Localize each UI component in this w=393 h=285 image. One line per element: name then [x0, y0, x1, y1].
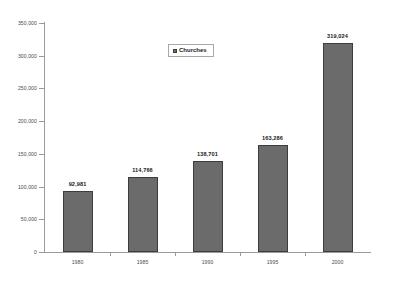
bar-group: 319,024: [305, 23, 370, 252]
bar-group: 92,981: [45, 23, 110, 252]
y-axis-tick-label: 50,000: [0, 216, 44, 222]
bar-chart: 350,000300,000250,000200,000150,000100,0…: [0, 0, 393, 285]
x-axis-tick: [305, 252, 306, 256]
legend-label-churches: Churches: [179, 47, 207, 54]
bar: [63, 191, 93, 252]
x-axis-tick: [240, 252, 241, 256]
x-axis-tick-label: 1990: [175, 259, 240, 266]
bar-group: 163,286: [240, 23, 305, 252]
legend-square-marker-icon: [173, 49, 177, 53]
y-axis-tick-label: 150,000: [0, 151, 44, 157]
bar: [128, 177, 158, 252]
bar: [193, 161, 223, 252]
bar: [258, 145, 288, 252]
x-axis-tick: [175, 252, 176, 256]
y-axis-tick-label: 200,000: [0, 118, 44, 124]
bar-group: 114,766: [110, 23, 175, 252]
x-axis-tick-label: 2000: [305, 259, 370, 266]
y-axis-tick-label: 300,000: [0, 53, 44, 59]
bar-value-label: 138,701: [197, 151, 218, 158]
bar-value-label: 163,286: [262, 135, 283, 142]
x-axis-tick-label: 1980: [45, 259, 110, 266]
bar: [323, 43, 353, 252]
y-axis-tick-label: 100,000: [0, 184, 44, 190]
y-axis-tick-label: 350,000: [0, 20, 44, 26]
x-axis-line: [44, 252, 371, 253]
y-axis-tick-label: 0: [0, 249, 44, 255]
x-axis-tick-label: 1995: [240, 259, 305, 266]
bar-value-label: 319,024: [327, 33, 348, 40]
x-axis-tick-label: 1985: [110, 259, 175, 266]
bar-value-label: 114,766: [132, 167, 153, 174]
chart-legend: Churches: [168, 44, 214, 57]
plot-area: 92,981114,766138,701163,286319,024: [45, 23, 370, 252]
bar-value-label: 92,981: [69, 181, 87, 188]
bar-group: 138,701: [175, 23, 240, 252]
y-axis-tick-label: 250,000: [0, 85, 44, 91]
x-axis-tick: [110, 252, 111, 256]
